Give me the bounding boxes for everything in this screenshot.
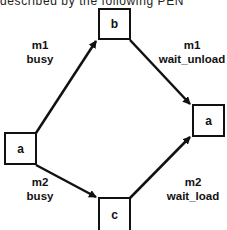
- edge-label-machine: m2: [20, 175, 60, 189]
- node-a-right: a: [192, 104, 225, 137]
- edge-label-c-to-a: m2 wait_load: [158, 175, 227, 203]
- edge-label-b-to-a: m1 wait_unload: [152, 38, 227, 66]
- edge-label-state: wait_load: [158, 189, 227, 203]
- node-b: b: [98, 8, 131, 40]
- edge-label-machine: m1: [20, 38, 60, 52]
- node-a-left: a: [4, 132, 37, 165]
- edge-label-state: busy: [20, 189, 60, 203]
- edge-label-a-to-c: m2 busy: [20, 175, 60, 203]
- edge-label-machine: m2: [158, 175, 227, 189]
- edge-label-state: busy: [20, 52, 60, 66]
- node-c: c: [98, 197, 131, 230]
- edge-label-machine: m1: [152, 38, 227, 52]
- edge-label-state: wait_unload: [152, 52, 227, 66]
- edge-label-a-to-b: m1 busy: [20, 38, 60, 66]
